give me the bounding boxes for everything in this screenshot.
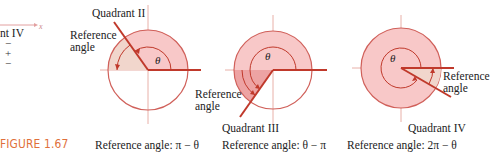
quadrant-ii-label: Quadrant II (92, 8, 145, 19)
theta-label: θ (390, 52, 396, 64)
sign-3: − (5, 57, 11, 69)
reference-angle-label-3: Reference (443, 71, 490, 82)
caption-quadrant-ii: Reference angle: π − θ (95, 139, 199, 151)
reference-angle-figure: θ θ (0, 0, 501, 156)
panel-quadrant-iii: θ (225, 15, 327, 125)
quadrant-iv-label: Quadrant IV (408, 123, 466, 134)
panel-quadrant-ii: θ (100, 5, 201, 124)
theta-label: θ (155, 54, 161, 66)
figure-number: FIGURE 1.67 (0, 136, 68, 151)
reference-angle-label-3b: angle (443, 83, 468, 94)
caption-quadrant-iv: Reference angle: 2π − θ (347, 139, 457, 151)
caption-quadrant-iii: Reference angle: θ − π (222, 139, 326, 151)
x-axis-label: x (39, 21, 43, 32)
reference-angle-label-1: Reference (70, 30, 117, 41)
theta-label: θ (265, 50, 271, 62)
reference-angle-label-2b: angle (195, 101, 220, 112)
reference-angle-label-1b: angle (70, 42, 95, 53)
panel-quadrant-iv: θ (352, 15, 454, 122)
reference-angle-label-2: Reference (195, 89, 242, 100)
quadrant-fragment-label: nt IV (0, 28, 24, 39)
quadrant-iii-label: Quadrant III (222, 123, 279, 134)
